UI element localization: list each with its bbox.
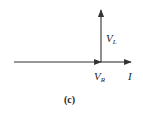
i-label: I <box>128 71 132 82</box>
vl-label-main: V <box>106 32 113 44</box>
vl-label: VL <box>106 33 117 46</box>
i-label-main: I <box>128 70 132 82</box>
figure-caption: (c) <box>64 95 75 105</box>
vr-label-sub: R <box>101 76 105 84</box>
vr-label: VR <box>94 71 105 84</box>
vr-label-main: V <box>94 70 101 82</box>
vl-label-sub: L <box>113 38 117 46</box>
